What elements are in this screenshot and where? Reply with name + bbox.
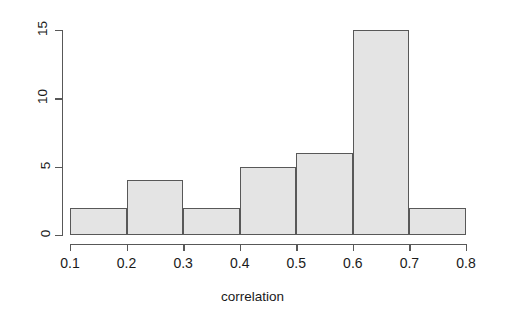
x-axis-tick (240, 244, 241, 251)
x-axis-tick (183, 244, 184, 251)
x-axis-tick (466, 244, 467, 251)
x-axis-tick (296, 244, 297, 251)
histogram-bar (409, 208, 466, 235)
histogram-figure: 051015 0.10.20.30.40.50.60.70.8 correlat… (0, 0, 505, 322)
histogram-bar (183, 208, 240, 235)
histogram-bar (70, 208, 127, 235)
y-axis-tick-label: 15 (0, 21, 50, 36)
y-axis-tick-label: 5 (0, 158, 50, 173)
y-axis-line (62, 30, 63, 236)
y-axis-tick (55, 30, 62, 31)
x-axis-tick-label: 0.6 (330, 255, 376, 271)
y-axis-tick-label: 10 (0, 89, 50, 104)
x-axis-tick-label: 0.8 (443, 255, 489, 271)
x-axis-tick (409, 244, 410, 251)
histogram-bar (353, 30, 410, 235)
y-axis-tick (55, 98, 62, 99)
x-axis-tick-label: 0.4 (217, 255, 263, 271)
x-axis-tick (127, 244, 128, 251)
x-axis-line (70, 244, 467, 245)
x-axis-tick-label: 0.5 (273, 255, 319, 271)
x-axis-tick (70, 244, 71, 251)
histogram-bar (296, 153, 353, 235)
histogram-bar (127, 180, 184, 235)
x-axis-tick-label: 0.7 (386, 255, 432, 271)
x-axis-title: correlation (0, 289, 505, 304)
y-axis-tick (55, 167, 62, 168)
x-axis-tick-label: 0.2 (104, 255, 150, 271)
y-axis-tick-label: 0 (0, 226, 50, 241)
x-axis-tick-label: 0.1 (47, 255, 93, 271)
x-axis-tick (353, 244, 354, 251)
x-axis-tick-label: 0.3 (160, 255, 206, 271)
histogram-bar (240, 167, 297, 235)
y-axis-tick (55, 235, 62, 236)
plot-area (70, 30, 466, 235)
